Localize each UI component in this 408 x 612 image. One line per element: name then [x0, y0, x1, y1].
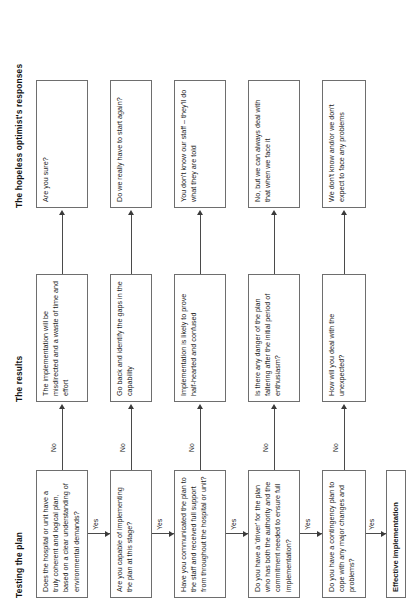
- connector-r1-to-resp1: [62, 215, 63, 274]
- question-node-1-text: Does the hospital or unit have a truly c…: [41, 476, 82, 592]
- question-node-4-text: Do you have a 'driver' for the plan who …: [253, 476, 294, 592]
- arrowhead-q3-to-r3: [197, 404, 203, 409]
- column-header-testing-the-plan: Testing the plan: [14, 532, 24, 598]
- connector-r4-to-resp4: [274, 215, 275, 274]
- edge-label-no-4: No: [262, 443, 269, 452]
- connector-q4-to-r4: [274, 409, 275, 470]
- question-node-1[interactable]: Does the hospital or unit have a truly c…: [36, 470, 88, 598]
- response-node-5[interactable]: We don't know and/or we don't expect to …: [322, 80, 366, 208]
- arrowhead-q1-to-r1: [59, 404, 65, 409]
- result-node-1[interactable]: The implementation will be misdirected a…: [36, 274, 88, 402]
- arrowhead-r4-to-resp4: [271, 210, 277, 215]
- result-node-4[interactable]: Is there any danger of the plan falterin…: [248, 274, 300, 402]
- arrowhead-q4-to-r4: [271, 404, 277, 409]
- connector-q1-to-r1: [62, 409, 63, 470]
- result-node-1-text: The implementation will be misdirected a…: [41, 280, 72, 396]
- result-node-5-text: How will you deal with the unexpected?: [327, 280, 347, 396]
- question-node-5[interactable]: Do you have a contingency plan to cope w…: [322, 470, 366, 598]
- flowchart-canvas: Testing the plan The results The hopeles…: [0, 0, 408, 612]
- column-header-the-results: The results: [14, 356, 24, 402]
- arrowhead-q2-to-q3: [169, 531, 174, 537]
- connector-q3-to-r3: [200, 409, 201, 470]
- edge-label-yes-2: Yes: [156, 519, 163, 530]
- question-node-2[interactable]: Are you capable of implementing the plan…: [110, 470, 152, 598]
- arrowhead-q1-to-q2: [105, 531, 110, 537]
- arrowhead-q3-to-q4: [243, 531, 248, 537]
- edge-label-no-5: No: [332, 443, 339, 452]
- response-node-1[interactable]: Are you sure?: [36, 80, 88, 208]
- connector-q5-to-r5: [344, 409, 345, 470]
- edge-label-yes-3: Yes: [230, 519, 237, 530]
- result-node-3[interactable]: Implementation is likely to prove half-h…: [174, 274, 226, 402]
- edge-label-no-2: No: [119, 443, 126, 452]
- question-node-2-text: Are you capable of implementing the plan…: [115, 476, 135, 592]
- response-node-2[interactable]: Do we really have to start again?: [110, 80, 152, 208]
- response-node-4-text: No, but we can always deal with that whe…: [253, 86, 273, 202]
- response-node-5-text: We don't know and/or we don't expect to …: [327, 86, 347, 202]
- outcome-node-effective-implementation[interactable]: Effective implementation: [386, 470, 406, 598]
- outcome-node-text: Effective implementation: [391, 502, 402, 592]
- edge-label-no-1: No: [50, 443, 57, 452]
- question-node-3[interactable]: Have you communicated the plan to the st…: [174, 470, 226, 598]
- connector-r3-to-resp3: [200, 215, 201, 274]
- arrowhead-q5-to-outcome: [381, 531, 386, 537]
- arrowhead-r2-to-resp2: [128, 210, 134, 215]
- arrowhead-q2-to-r2: [128, 404, 134, 409]
- diagram-viewport: Testing the plan The results The hopeles…: [0, 0, 408, 612]
- connector-r2-to-resp2: [131, 215, 132, 274]
- connector-r5-to-resp5: [344, 215, 345, 274]
- response-node-1-text: Are you sure?: [41, 157, 51, 202]
- edge-label-no-3: No: [188, 443, 195, 452]
- result-node-3-text: Implementation is likely to prove half-h…: [179, 280, 199, 396]
- result-node-5[interactable]: How will you deal with the unexpected?: [322, 274, 366, 402]
- question-node-3-text: Have you communicated the plan to the st…: [179, 476, 210, 592]
- edge-label-yes-5: Yes: [368, 519, 375, 530]
- result-node-2-text: Go back and identify the gaps in the cap…: [115, 280, 135, 396]
- edge-label-yes-1: Yes: [92, 519, 99, 530]
- response-node-2-text: Do we really have to start again?: [115, 97, 125, 202]
- arrowhead-q5-to-r5: [341, 404, 347, 409]
- question-node-5-text: Do you have a contingency plan to cope w…: [327, 476, 358, 592]
- edge-label-yes-4: Yes: [304, 519, 311, 530]
- question-node-4[interactable]: Do you have a 'driver' for the plan who …: [248, 470, 300, 598]
- column-header-hopeless-optimist-responses: The hopeless optimist's responses: [14, 64, 24, 208]
- result-node-4-text: Is there any danger of the plan falterin…: [253, 280, 284, 396]
- arrowhead-q4-to-q5: [317, 531, 322, 537]
- response-node-3-text: You don't know our staff – they'll do wh…: [179, 86, 199, 202]
- arrowhead-r5-to-resp5: [341, 210, 347, 215]
- connector-q2-to-r2: [131, 409, 132, 470]
- response-node-4[interactable]: No, but we can always deal with that whe…: [248, 80, 300, 208]
- arrowhead-r3-to-resp3: [197, 210, 203, 215]
- result-node-2[interactable]: Go back and identify the gaps in the cap…: [110, 274, 152, 402]
- arrowhead-r1-to-resp1: [59, 210, 65, 215]
- response-node-3[interactable]: You don't know our staff – they'll do wh…: [174, 80, 226, 208]
